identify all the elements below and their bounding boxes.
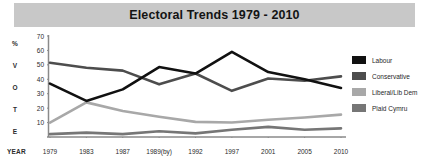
series-lines bbox=[47, 35, 346, 138]
y-axis-title-char: % bbox=[12, 40, 18, 47]
x-tick-label: 2001 bbox=[261, 148, 275, 156]
y-tick-label: 60 bbox=[24, 47, 44, 54]
x-tick-label: 1992 bbox=[188, 148, 202, 156]
legend-item-label: Conservative bbox=[372, 73, 410, 80]
legend-item-label: Labour bbox=[372, 57, 392, 64]
x-tick-label: 1979 bbox=[43, 148, 57, 156]
y-tick-label: 50 bbox=[24, 61, 44, 68]
legend-swatch-icon bbox=[352, 88, 366, 96]
y-tick-label: 40 bbox=[24, 76, 44, 83]
chart-page: Electoral Trends 1979 - 2010 % V O T E 1… bbox=[0, 0, 429, 165]
series-line-labour bbox=[50, 52, 341, 101]
x-axis-title: YEAR bbox=[7, 148, 26, 155]
chart-legend: LabourConservativeLiberal/Lib DemPlaid C… bbox=[352, 52, 426, 116]
x-tick-label: 1987 bbox=[116, 148, 130, 156]
y-axis-title-char: T bbox=[13, 106, 17, 113]
series-line-plaid-cymru bbox=[50, 127, 341, 134]
y-axis-title-char: E bbox=[13, 128, 17, 135]
y-tick-label: 70 bbox=[24, 33, 44, 40]
legend-item-label: Plaid Cymru bbox=[372, 105, 407, 112]
page-title: Electoral Trends 1979 - 2010 bbox=[14, 3, 415, 27]
legend-item[interactable]: Liberal/Lib Dem bbox=[352, 84, 426, 100]
x-tick-label: 1983 bbox=[79, 148, 93, 156]
y-axis-title-char: V bbox=[13, 62, 17, 69]
y-axis-title: % V O T E bbox=[8, 40, 22, 135]
legend-item[interactable]: Labour bbox=[352, 52, 426, 68]
y-axis-title-char: O bbox=[12, 84, 17, 91]
legend-item[interactable]: Conservative bbox=[352, 68, 426, 84]
x-tick-label: 2010 bbox=[334, 148, 348, 156]
legend-swatch-icon bbox=[352, 56, 366, 64]
y-tick-label: 20 bbox=[24, 105, 44, 112]
y-tick-label: 30 bbox=[24, 90, 44, 97]
y-tick-label: 10 bbox=[24, 119, 44, 126]
x-axis-tick-labels: 1979198319871989(by)19921997200120052010 bbox=[47, 148, 346, 160]
legend-item[interactable]: Plaid Cymru bbox=[352, 100, 426, 116]
x-tick-label: 2005 bbox=[297, 148, 311, 156]
chart-title-bar: Electoral Trends 1979 - 2010 bbox=[14, 3, 415, 27]
x-tick-label: 1989(by) bbox=[146, 148, 172, 156]
x-tick-label: 1997 bbox=[225, 148, 239, 156]
y-axis-tick-labels: 10203040506070 bbox=[24, 31, 44, 139]
series-line-liberal-lib-dem bbox=[50, 102, 341, 122]
legend-item-label: Liberal/Lib Dem bbox=[372, 89, 418, 96]
legend-swatch-icon bbox=[352, 104, 366, 112]
legend-swatch-icon bbox=[352, 72, 366, 80]
plot-area bbox=[47, 35, 346, 138]
